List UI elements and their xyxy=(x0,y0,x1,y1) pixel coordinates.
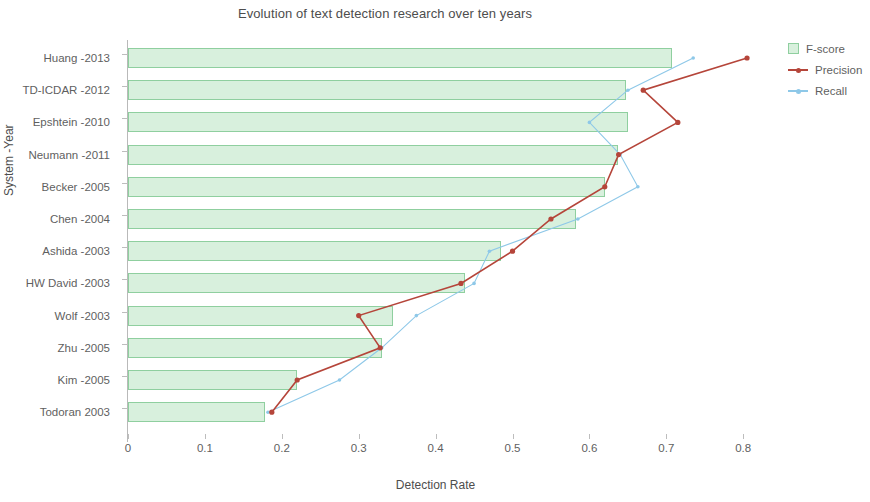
bar-fscore xyxy=(128,112,628,132)
y-tick-mark xyxy=(122,215,128,216)
legend-item-recall[interactable]: Recall xyxy=(788,82,870,99)
bar-fscore xyxy=(128,338,382,358)
y-tick-label: Neumann -2011 xyxy=(28,149,110,161)
bar-fscore xyxy=(128,370,297,390)
y-tick-label: Kim -2005 xyxy=(58,374,110,386)
y-tick-mark xyxy=(122,118,128,119)
y-tick-label: Todoran 2003 xyxy=(40,406,110,418)
y-tick-mark xyxy=(122,183,128,184)
x-tick-label: 0.2 xyxy=(274,442,290,454)
x-tick-mark xyxy=(282,434,283,439)
x-axis-title: Detection Rate xyxy=(128,478,743,492)
y-tick-label: Zhu -2005 xyxy=(58,342,110,354)
y-tick-mark xyxy=(122,54,128,55)
x-tick-label: 0.7 xyxy=(658,442,674,454)
x-tick-mark xyxy=(589,434,590,439)
recall-swatch-icon xyxy=(788,85,808,96)
y-tick-mark xyxy=(122,247,128,248)
bar-fscore xyxy=(128,241,501,261)
x-tick-label: 0.8 xyxy=(735,442,751,454)
y-tick-label: Becker -2005 xyxy=(42,181,110,193)
y-tick-label: HW David -2003 xyxy=(26,277,110,289)
y-tick-mark xyxy=(122,151,128,152)
bar-fscore xyxy=(128,273,465,293)
bar-fscore xyxy=(128,402,265,422)
x-tick-mark xyxy=(743,434,744,439)
bar-fscore xyxy=(128,306,393,326)
y-tick-mark xyxy=(122,279,128,280)
x-axis: 00.10.20.30.40.50.60.70.8 xyxy=(128,434,808,474)
y-tick-label: Epshtein -2010 xyxy=(33,116,110,128)
x-tick-label: 0 xyxy=(125,442,131,454)
x-tick-label: 0.4 xyxy=(428,442,444,454)
bar-fscore xyxy=(128,209,576,229)
x-tick-mark xyxy=(128,434,129,439)
x-tick-mark xyxy=(359,434,360,439)
x-tick-label: 0.5 xyxy=(505,442,521,454)
x-tick-mark xyxy=(205,434,206,439)
y-tick-label: Chen -2004 xyxy=(50,213,110,225)
bar-fscore xyxy=(128,80,626,100)
x-tick-mark xyxy=(513,434,514,439)
chart-root: Evolution of text detection research ove… xyxy=(0,0,870,502)
x-tick-label: 0.1 xyxy=(197,442,213,454)
x-tick-mark xyxy=(436,434,437,439)
y-tick-label: Huang -2013 xyxy=(44,52,111,64)
legend-item-fscore[interactable]: F-score xyxy=(788,40,870,57)
y-tick-label: TD-ICDAR -2012 xyxy=(22,84,110,96)
y-axis-tick-labels: Huang -2013TD-ICDAR -2012Epshtein -2010N… xyxy=(0,48,120,434)
legend-label-recall: Recall xyxy=(815,85,847,97)
y-tick-mark xyxy=(122,312,128,313)
bar-fscore xyxy=(128,48,672,68)
y-tick-mark xyxy=(122,344,128,345)
legend-item-precision[interactable]: Precision xyxy=(788,61,870,78)
y-tick-label: Ashida -2003 xyxy=(42,245,110,257)
legend: F-score Precision Recall xyxy=(788,40,870,103)
y-tick-mark xyxy=(122,408,128,409)
legend-label-precision: Precision xyxy=(815,64,862,76)
chart-title: Evolution of text detection research ove… xyxy=(0,6,770,21)
x-tick-mark xyxy=(666,434,667,439)
legend-label-fscore: F-score xyxy=(806,43,845,55)
bar-fscore xyxy=(128,145,618,165)
y-tick-label: Wolf -2003 xyxy=(55,310,110,322)
precision-marker xyxy=(744,55,749,60)
bar-fscore xyxy=(128,177,605,197)
y-tick-mark xyxy=(122,86,128,87)
x-tick-label: 0.6 xyxy=(581,442,597,454)
x-tick-label: 0.3 xyxy=(351,442,367,454)
plot-area xyxy=(128,48,743,434)
precision-swatch-icon xyxy=(788,64,808,75)
fscore-swatch-icon xyxy=(788,43,799,54)
y-tick-mark xyxy=(122,376,128,377)
